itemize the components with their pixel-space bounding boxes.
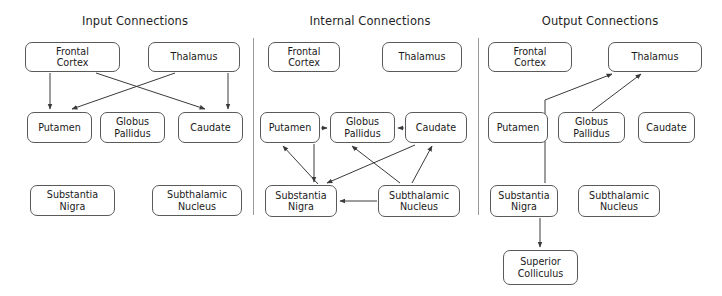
node-output-frontal-cortex[interactable]: Frontal Cortex xyxy=(488,42,572,72)
node-output-substantia-nigra[interactable]: Substantia Nigra xyxy=(490,185,558,217)
edge-subthalamic-nucleus-to-caudate xyxy=(412,146,432,183)
node-internal-caudate[interactable]: Caudate xyxy=(405,112,467,143)
node-input-globus-pallidus[interactable]: Globus Pallidus xyxy=(100,112,165,143)
node-input-frontal-cortex[interactable]: Frontal Cortex xyxy=(25,42,120,72)
node-internal-globus-pallidus[interactable]: Globus Pallidus xyxy=(330,112,395,143)
edge-subthalamic-nucleus-to-globus-pallidus xyxy=(352,146,400,183)
node-input-putamen[interactable]: Putamen xyxy=(27,112,92,143)
edge-substantia-nigra-to-putamen xyxy=(283,146,318,184)
node-internal-thalamus[interactable]: Thalamus xyxy=(382,42,462,72)
node-output-globus-pallidus[interactable]: Globus Pallidus xyxy=(558,112,625,143)
edge-thalamus-to-putamen xyxy=(72,73,175,109)
node-output-putamen[interactable]: Putamen xyxy=(488,112,548,143)
node-output-subthalamic-nucleus[interactable]: Subthalamic Nucleus xyxy=(578,185,660,217)
node-input-caudate[interactable]: Caudate xyxy=(178,112,243,143)
divider-input-internal xyxy=(253,38,254,215)
node-output-caudate[interactable]: Caudate xyxy=(638,112,695,143)
divider-internal-output xyxy=(478,38,479,215)
panel-title-internal: Internal Connections xyxy=(270,14,470,28)
node-internal-putamen[interactable]: Putamen xyxy=(260,112,320,143)
edge-frontal-cortex-to-caudate xyxy=(96,73,205,109)
panel-title-input: Input Connections xyxy=(35,14,235,28)
node-input-subthalamic-nucleus[interactable]: Subthalamic Nucleus xyxy=(152,185,242,216)
node-input-substantia-nigra[interactable]: Substantia Nigra xyxy=(30,185,115,216)
edge-caudate-to-substantia-nigra xyxy=(327,145,415,183)
node-output-thalamus[interactable]: Thalamus xyxy=(608,42,702,72)
node-output-superior-colliculus[interactable]: Superior Colliculus xyxy=(503,250,578,285)
edge-globus-pallidus-to-thalamus xyxy=(592,74,641,111)
brain-connectivity-diagram: Input Connections Internal Connections O… xyxy=(0,0,722,296)
node-internal-subthalamic-nucleus[interactable]: Subthalamic Nucleus xyxy=(378,185,460,217)
node-internal-frontal-cortex[interactable]: Frontal Cortex xyxy=(268,42,340,72)
panel-title-output: Output Connections xyxy=(500,14,700,28)
node-input-thalamus[interactable]: Thalamus xyxy=(148,42,240,72)
node-internal-substantia-nigra[interactable]: Substantia Nigra xyxy=(265,185,337,217)
